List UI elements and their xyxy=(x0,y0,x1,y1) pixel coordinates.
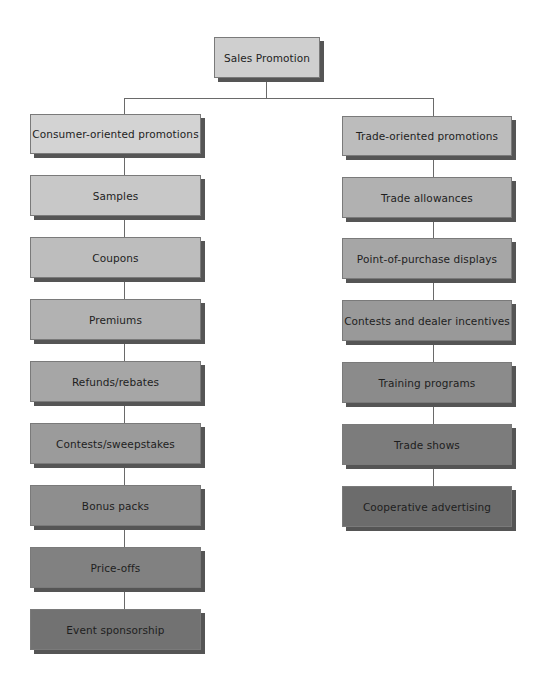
node-sales-promotion: Sales Promotion xyxy=(214,37,320,78)
node-training-programs: Training programs xyxy=(342,362,512,403)
node-bonus-packs: Bonus packs xyxy=(30,485,201,526)
node-event-sponsorship: Event sponsorship xyxy=(30,609,201,650)
node-refunds-rebates: Refunds/rebates xyxy=(30,361,201,402)
node-coupons: Coupons xyxy=(30,237,201,278)
connector-right-down xyxy=(433,98,434,116)
connector-horizontal xyxy=(124,98,434,99)
node-premiums: Premiums xyxy=(30,299,201,340)
node-cooperative-advertising: Cooperative advertising xyxy=(342,486,512,527)
node-contests-sweepstakes: Contests/sweepstakes xyxy=(30,423,201,464)
node-trade-shows: Trade shows xyxy=(342,424,512,465)
node-consumer-oriented-promotions: Consumer-oriented promotions xyxy=(30,114,201,154)
node-samples: Samples xyxy=(30,175,201,216)
node-contests-and-dealer-incentives: Contests and dealer incentives xyxy=(342,300,512,341)
node-trade-oriented-promotions: Trade-oriented promotions xyxy=(342,116,512,156)
connector-left-down xyxy=(124,98,125,114)
sales-promotion-diagram: Sales Promotion Consumer-oriented promot… xyxy=(0,0,539,679)
node-point-of-purchase-displays: Point-of-purchase displays xyxy=(342,238,512,279)
node-price-offs: Price-offs xyxy=(30,547,201,588)
node-trade-allowances: Trade allowances xyxy=(342,177,512,218)
